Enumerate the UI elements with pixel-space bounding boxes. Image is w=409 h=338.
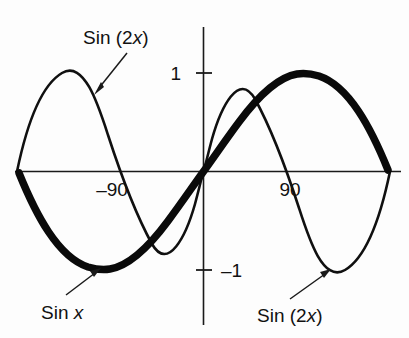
annotation-sin2x-top-label: Sin (2x) (83, 27, 148, 48)
trig-graph-figure: 1 –1 –90 90 Sin (2x) Sin x Sin (2x) (0, 0, 409, 338)
sine-plot-svg: 1 –1 –90 90 Sin (2x) Sin x Sin (2x) (0, 0, 409, 338)
annotation-sin2x-bottom-pre: Sin (2 (257, 305, 307, 326)
annotation-sinx-pre: Sin (41, 302, 74, 323)
annotation-sin2x-top-pre: Sin (2 (83, 27, 133, 48)
annotation-sin2x-bottom-label: Sin (2x) (257, 305, 322, 326)
annotation-sinx-label: Sin x (41, 302, 85, 323)
y-tick-label-positive-one: 1 (170, 63, 181, 84)
annotation-sinx-leader (66, 273, 95, 295)
annotation-sin2x-bottom-leader (290, 274, 325, 299)
annotation-sin2x-bottom-right: Sin (2x) (257, 269, 331, 326)
annotation-sin2x-top-leader (99, 53, 127, 88)
annotation-sin2x-bottom-post: ) (316, 305, 322, 326)
annotation-sin2x-top-post: ) (142, 27, 148, 48)
annotation-sin2x-top: Sin (2x) (83, 27, 148, 95)
annotation-sinx-var: x (73, 302, 85, 323)
y-tick-label-negative-one: –1 (221, 260, 242, 281)
annotation-sinx-bottom-left: Sin x (41, 268, 101, 323)
